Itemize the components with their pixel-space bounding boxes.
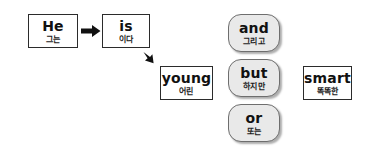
conjunction-pill-or-korean: 또는 [247,128,261,136]
conjunction-pill-and-english: and [239,21,269,35]
conjunction-pill-but-korean: 하지만 [243,83,264,91]
conjunction-pill-but-english: but [240,66,267,80]
arrow-down-right-icon [141,50,159,68]
word-card-subject-english: He [42,19,64,33]
word-card-adjective-korean: 어린 [179,88,193,96]
word-card-verb[interactable]: is 이다 [102,14,150,48]
sentence-diagram-canvas: He 그는 is 이다 young 어린 and 그리고 but 하지만 or … [0,0,371,156]
word-card-adjective-english: young [162,71,212,85]
word-card-complement-english: smart [304,71,351,85]
word-card-subject[interactable]: He 그는 [28,14,78,48]
conjunction-pill-or[interactable]: or 또는 [228,104,280,142]
word-card-verb-english: is [119,19,133,33]
word-card-verb-korean: 이다 [119,36,133,44]
word-card-complement-korean: 똑똑한 [317,88,338,96]
arrow-right-icon [80,24,102,38]
conjunction-pill-or-english: or [246,111,263,125]
word-card-subject-korean: 그는 [46,36,60,44]
word-card-complement[interactable]: smart 똑똑한 [303,66,352,100]
conjunction-pill-but[interactable]: but 하지만 [228,59,280,97]
conjunction-pill-and-korean: 그리고 [243,38,264,46]
word-card-adjective[interactable]: young 어린 [160,66,213,100]
conjunction-pill-and[interactable]: and 그리고 [228,14,280,52]
